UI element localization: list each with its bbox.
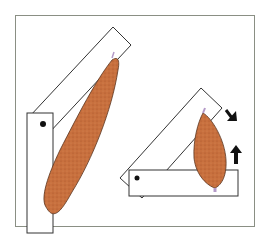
muscle-diagram xyxy=(0,0,269,244)
lower-bone-left xyxy=(27,113,53,233)
pivot-dot-right xyxy=(135,176,140,181)
long-muscle-joint xyxy=(27,27,131,233)
short-muscle-joint xyxy=(120,88,242,198)
arrow-up-icon xyxy=(230,145,242,164)
arrow-down-icon xyxy=(226,110,237,121)
pivot-dot-left xyxy=(40,121,46,127)
